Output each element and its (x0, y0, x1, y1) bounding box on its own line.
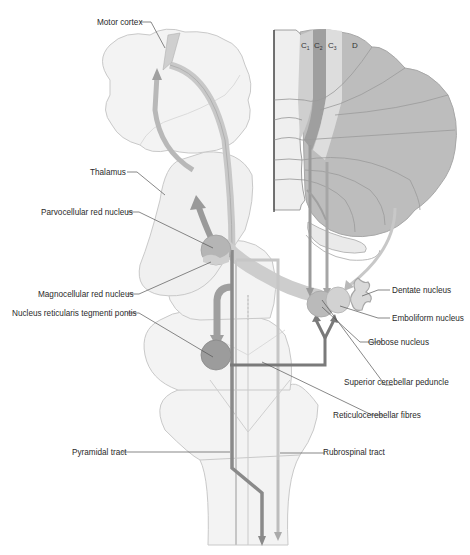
label-globose-nucleus: Globose nucleus (368, 338, 429, 347)
label-rubrospinal-tract: Rubrospinal tract (323, 448, 386, 457)
label-reticulocerebellar-fibres: Reticulocerebellar fibres (333, 411, 421, 420)
cerebellum (274, 29, 456, 260)
cerebellar-pathway-diagram: C1 C2 C3 D (0, 0, 470, 555)
label-emboliform-nucleus: Emboliform nucleus (392, 314, 464, 323)
label-thalamus: Thalamus (90, 168, 126, 177)
label-superior-cerebellar-peduncle: Superior cerebellar peduncle (344, 378, 449, 387)
label-magnocellular-red-nucleus: Magnocellular red nucleus (38, 290, 134, 299)
zone-d: D (352, 41, 358, 50)
label-parvocellular-red-nucleus: Parvocellular red nucleus (41, 208, 133, 217)
label-motor-cortex: Motor cortex (97, 18, 143, 27)
cerebral-hemisphere (103, 29, 251, 153)
label-dentate-nucleus: Dentate nucleus (392, 286, 451, 295)
nrtp-nucleus (201, 340, 231, 370)
label-nrtp: Nucleus reticularis tegmenti pontis (12, 309, 137, 318)
label-pyramidal-tract: Pyramidal tract (72, 448, 127, 457)
